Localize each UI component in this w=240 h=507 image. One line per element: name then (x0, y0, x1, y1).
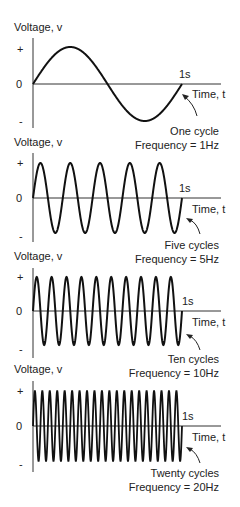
plus-tick-label: + (17, 157, 23, 169)
time-mark-label: 1s (182, 410, 194, 422)
panel-5hz: Voltage, v + 0 - 1s Time, t Five cycles … (14, 136, 225, 265)
minus-tick-label: - (19, 115, 23, 127)
x-axis-label: Time, t (192, 88, 225, 100)
y-axis-label: Voltage, v (14, 136, 63, 148)
sine-wave-frequency-diagram: Voltage, v + 0 - 1s Time, t One cycle Fr… (0, 0, 240, 507)
cycles-label: One cycle (170, 125, 219, 137)
panel-10hz: Voltage, v + 0 - 1s Time, t Ten cycles F… (14, 250, 225, 379)
time-mark-label: 1s (179, 68, 191, 80)
arrow-icon (190, 220, 200, 234)
panel-20hz: Voltage, v + 0 - 1s Time, t Twenty cycle… (14, 363, 225, 493)
arrow-icon (190, 449, 200, 463)
y-axis-label: Voltage, v (14, 250, 63, 262)
time-mark-label: 1s (182, 295, 194, 307)
cycles-label: Twenty cycles (151, 467, 220, 479)
x-axis-label: Time, t (192, 203, 225, 215)
arrowhead-icon (186, 334, 193, 339)
zero-tick-label: 0 (16, 420, 22, 432)
y-axis-label: Voltage, v (14, 21, 63, 33)
plus-tick-label: + (17, 271, 23, 283)
frequency-label: Frequency = 20Hz (129, 481, 219, 493)
cycles-label: Ten cycles (168, 353, 220, 365)
minus-tick-label: - (19, 343, 23, 355)
arrowhead-icon (186, 447, 193, 452)
panel-1hz: Voltage, v + 0 - 1s Time, t One cycle Fr… (14, 21, 225, 151)
frequency-label: Frequency = 10Hz (129, 367, 219, 379)
zero-tick-label: 0 (16, 305, 22, 317)
plus-tick-label: + (17, 385, 23, 397)
plus-tick-label: + (17, 43, 23, 55)
x-axis-label: Time, t (192, 431, 225, 443)
zero-tick-label: 0 (16, 78, 22, 90)
x-axis-label: Time, t (192, 316, 225, 328)
sine-wave (33, 391, 182, 461)
frequency-label: Frequency = 1Hz (135, 139, 219, 151)
sine-wave (33, 277, 182, 345)
y-axis-label: Voltage, v (14, 363, 63, 375)
minus-tick-label: - (19, 230, 23, 242)
zero-tick-label: 0 (16, 192, 22, 204)
arrow-icon (190, 336, 200, 350)
time-mark-label: 1s (179, 182, 191, 194)
cycles-label: Five cycles (165, 239, 220, 251)
minus-tick-label: - (19, 458, 23, 470)
frequency-label: Frequency = 5Hz (135, 253, 219, 265)
